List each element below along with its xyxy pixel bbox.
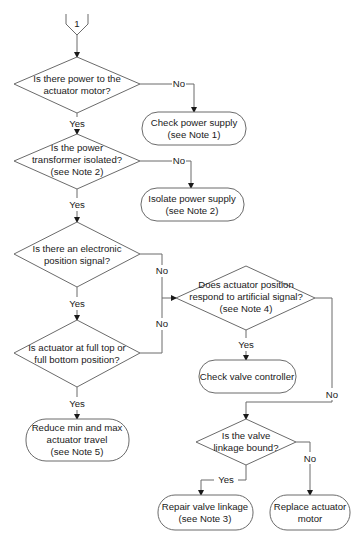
action-repair-valve-linkage: Repair valve linkage (see Note 3) (158, 495, 253, 530)
no-label: No (156, 265, 168, 276)
action-text: Repair valve linkage (162, 501, 248, 512)
action-text: Check valve controller (200, 371, 295, 382)
decision-text: Is there an electronic (32, 243, 121, 254)
yes-label: Yes (69, 298, 85, 309)
action-text: motor (298, 513, 323, 524)
decision-valve-linkage-bound: Is the valve linkage bound? (196, 419, 296, 465)
action-text: (see Note 5) (51, 446, 104, 457)
decision-text: full bottom position? (34, 354, 119, 365)
action-replace-actuator-motor: Replace actuator motor (270, 495, 350, 530)
decision-text: Is the power (51, 142, 104, 153)
action-isolate-power-supply: Isolate power supply (see Note 2) (141, 188, 244, 221)
action-text: actuator travel (47, 434, 108, 445)
action-text: (see Note 1) (168, 129, 221, 140)
decision-text: linkage bound? (213, 442, 278, 453)
action-check-power-supply: Check power supply (see Note 1) (142, 112, 246, 145)
decision-text: (see Note 4) (220, 303, 273, 314)
decision-electronic-position-signal: Is there an electronic position signal? (14, 222, 140, 287)
no-label: No (173, 78, 185, 89)
yes-label: Yes (218, 474, 234, 485)
decision-actuator-full-position: Is actuator at full top or full bottom p… (14, 320, 140, 387)
decision-transformer-isolated: Is the power transformer isolated? (see … (14, 134, 140, 189)
action-text: Reduce min and max (32, 422, 123, 433)
yes-label: Yes (69, 199, 85, 210)
yes-label: Yes (238, 339, 254, 350)
decision-text: respond to artificial signal? (189, 291, 303, 302)
action-reduce-actuator-travel: Reduce min and max actuator travel (see … (26, 419, 129, 461)
action-check-valve-controller: Check valve controller (199, 360, 296, 393)
decision-text: Does actuator position (198, 279, 293, 290)
yes-label: Yes (69, 118, 85, 129)
decision-text: Is the valve (222, 430, 271, 441)
decision-power-to-motor: Is there power to the actuator motor? (14, 57, 140, 113)
decision-text: actuator motor? (43, 85, 110, 96)
no-label: No (156, 318, 168, 329)
action-text: Replace actuator (274, 501, 347, 512)
action-text: Check power supply (151, 117, 238, 128)
action-text: (see Note 2) (166, 205, 219, 216)
decision-text: (see Note 2) (51, 166, 104, 177)
decision-text: transformer isolated? (32, 154, 122, 165)
decision-text: Is actuator at full top or (28, 342, 126, 353)
troubleshooting-flowchart: 1 Is there power to the actuator motor? … (0, 0, 361, 543)
action-text: Isolate power supply (148, 193, 236, 204)
decision-respond-artificial-signal: Does actuator position respond to artifi… (176, 266, 315, 330)
yes-label: Yes (69, 398, 85, 409)
no-label: No (173, 155, 185, 166)
decision-text: Is there power to the (33, 73, 120, 84)
decision-text: position signal? (44, 255, 110, 266)
off-page-connector: 1 (66, 14, 88, 35)
no-label: No (326, 389, 338, 400)
connector-label: 1 (74, 18, 79, 29)
action-text: (see Note 3) (179, 513, 232, 524)
no-label: No (304, 453, 316, 464)
